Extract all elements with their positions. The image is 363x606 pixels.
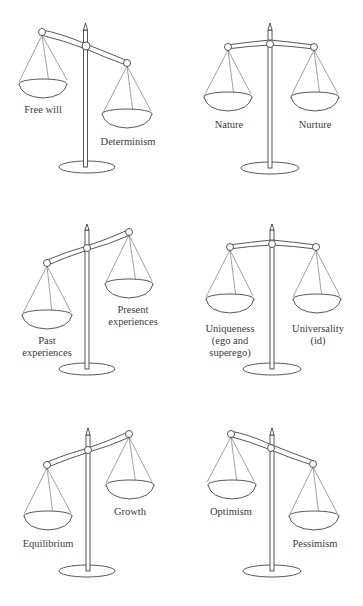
scale-equilibrium-growth: Equilibrium Growth [0, 400, 181, 600]
label-optimism: Optimism [203, 506, 259, 518]
label-uniqueness: Uniqueness (ego and superego) [196, 323, 264, 359]
balance-scale-icon [181, 0, 362, 200]
balance-scale-icon [0, 0, 181, 200]
label-free-will: Free will [20, 104, 66, 116]
label-line: Universality [284, 323, 352, 335]
scale-uniqueness-universality: Uniqueness (ego and superego) Universali… [181, 200, 362, 400]
label-pessimism: Pessimism [285, 538, 345, 550]
label-line: Present [100, 304, 166, 316]
label-line: experiences [100, 316, 166, 328]
label-line: (id) [284, 335, 352, 347]
balance-scale-icon [181, 200, 362, 400]
label-equilibrium: Equilibrium [14, 538, 82, 550]
label-universality: Universality (id) [284, 323, 352, 347]
balance-scale-icon [0, 200, 181, 400]
scale-free-will-determinism: Free will Determinism [0, 0, 181, 200]
label-present-experiences: Present experiences [100, 304, 166, 328]
label-growth: Growth [105, 506, 155, 518]
label-nature: Nature [206, 119, 252, 131]
balance-scale-icon [0, 400, 181, 606]
label-nurture: Nurture [292, 119, 338, 131]
balance-scale-icon [181, 400, 362, 606]
label-line: Past [14, 335, 80, 347]
scale-past-present: Past experiences Present experiences [0, 200, 181, 400]
label-determinism: Determinism [96, 136, 160, 148]
label-past-experiences: Past experiences [14, 335, 80, 359]
label-line: superego) [196, 347, 264, 359]
label-line: experiences [14, 347, 80, 359]
scale-nature-nurture: Nature Nurture [181, 0, 362, 200]
label-line: (ego and [196, 335, 264, 347]
label-line: Uniqueness [196, 323, 264, 335]
scale-optimism-pessimism: Optimism Pessimism [181, 400, 362, 600]
